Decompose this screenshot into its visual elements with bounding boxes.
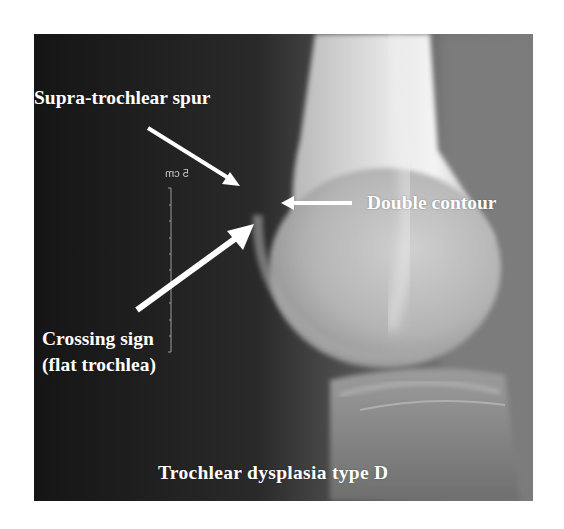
annotation-supra-trochlear-spur: Supra-trochlear spur [34, 88, 210, 108]
scale-label: 5 cm [165, 167, 189, 179]
annotation-crossing-sign: Crossing sign (flat trochlea) [42, 326, 156, 378]
annotation-classification: Trochlear dysplasia type D [158, 463, 388, 483]
annotation-crossing-sign-line1: Crossing sign [42, 326, 156, 352]
annotation-crossing-sign-line2: (flat trochlea) [42, 352, 156, 378]
annotation-double-contour: Double contour [367, 193, 496, 213]
